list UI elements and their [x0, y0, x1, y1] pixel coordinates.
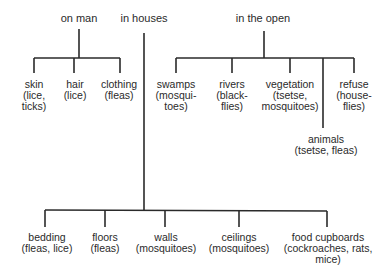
node-swamps: swamps (mosqui- toes) [156, 79, 197, 112]
node-bedding: bedding (fleas, lice) [22, 232, 73, 254]
node-skin: skin (lice, ticks) [22, 79, 47, 112]
node-clothing: clothing (fleas) [101, 79, 137, 101]
category-on-man: on man [61, 13, 98, 24]
node-refuse: refuse (house- flies) [336, 79, 372, 112]
node-animals: animals (tsetse, fleas) [294, 134, 357, 156]
node-rivers: rivers (black- flies) [216, 79, 248, 112]
node-walls: walls (mosquitoes) [136, 232, 197, 254]
category-in-houses: in houses [120, 13, 167, 24]
category-in-the-open: in the open [236, 13, 290, 24]
node-food-cupboards: food cupboards (cockroaches, rats, mice) [284, 232, 373, 265]
node-hair: hair (lice) [64, 79, 87, 101]
node-vegetation: vegetation (tsetse, mosquitoes) [261, 79, 318, 112]
node-floors: floors (fleas) [90, 232, 119, 254]
node-ceilings: ceilings (mosquitoes) [209, 232, 270, 254]
